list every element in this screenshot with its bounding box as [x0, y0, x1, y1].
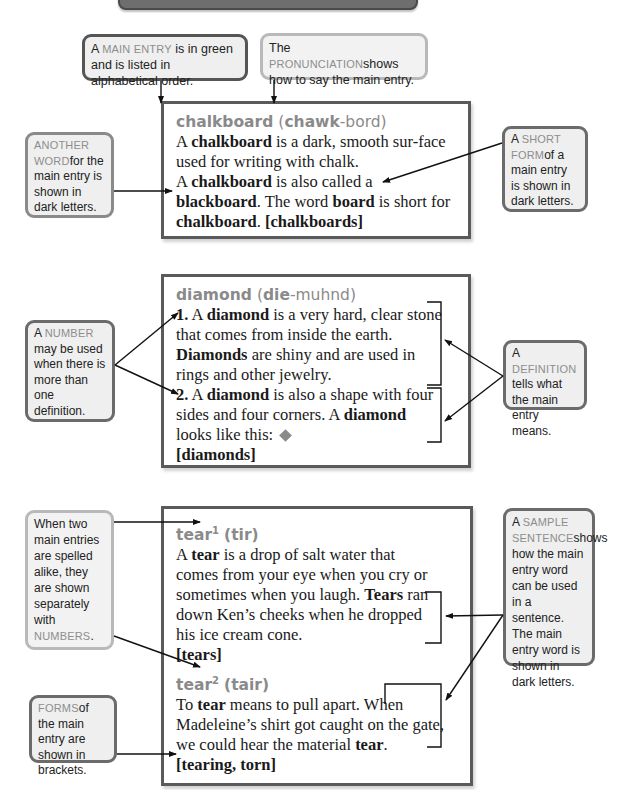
- sense-number: 2.: [176, 385, 188, 404]
- forms: [tearing, torn]: [176, 755, 276, 774]
- entry-tear: tear1 (tir) A tear is a drop of salt wat…: [161, 506, 473, 786]
- headword: tear2: [176, 676, 219, 694]
- callout-short-form: A Short formof a main entry is shown in …: [502, 126, 588, 212]
- headword: diamond: [176, 286, 252, 304]
- another-word: blackboard: [176, 192, 257, 211]
- pronunciation: (die-muhnd): [257, 286, 356, 304]
- callout-text: .: [90, 629, 93, 643]
- pronunciation: (tir): [224, 526, 259, 544]
- term-main-entry: Main entry: [102, 43, 172, 55]
- forms: [chalkboards]: [265, 212, 363, 231]
- callout-text: A: [512, 346, 519, 360]
- term-pronunciation: Pronunciation: [269, 58, 363, 70]
- entry-chalkboard: chalkboard (chawk-bord) A chalkboard is …: [161, 101, 471, 239]
- short-form: board: [332, 192, 374, 211]
- headword: tear1: [176, 526, 219, 544]
- diamond-icon: [279, 429, 292, 442]
- callout-text: A: [91, 42, 102, 56]
- pronunciation: (tair): [224, 676, 269, 694]
- callout-text: A: [511, 132, 522, 146]
- term-number: Number: [45, 327, 94, 339]
- definition: A chalkboard is a dark, smooth sur-face …: [176, 132, 456, 232]
- homograph-number: 2: [212, 675, 219, 686]
- sense-number: 1.: [176, 305, 188, 324]
- forms: [diamonds]: [176, 445, 256, 464]
- callout-sample-sentence: A Sample sentenceshows how the main entr…: [503, 508, 595, 666]
- pronunciation: (chawk-bord): [278, 113, 386, 131]
- callout-text: The: [269, 41, 291, 55]
- entry-heading-tear2: tear2 (tair): [176, 675, 458, 695]
- entry-diamond: diamond (die-muhnd) 1. A diamond is a ve…: [161, 274, 471, 468]
- callout-text: tells what the main entry means.: [512, 377, 562, 438]
- section-banner: [118, 0, 418, 10]
- callout-number: A Number may be used when there is more …: [25, 320, 115, 422]
- callout-pronunciation: The Pronunciationshows how to say the ma…: [260, 33, 428, 80]
- callout-text: When two main entries are spelled alike,…: [34, 517, 99, 627]
- callout-homographs: When two main entries are spelled alike,…: [25, 510, 114, 650]
- entry-heading-tear1: tear1 (tir): [176, 525, 458, 545]
- headword: chalkboard: [176, 113, 273, 131]
- entry-heading: chalkboard (chawk-bord): [176, 112, 456, 132]
- callout-text: A: [512, 515, 523, 529]
- homograph-number: 1: [212, 525, 219, 536]
- callout-text: may be used when there is more than one …: [34, 342, 105, 418]
- callout-forms: Formsof the main entry are shown in brac…: [29, 695, 117, 763]
- forms: [tears]: [176, 645, 222, 664]
- callout-text: shows how the main entry word can be use…: [512, 531, 608, 689]
- callout-text: A: [34, 326, 45, 340]
- callout-main-entry: A Main entry is in green and is listed i…: [82, 34, 248, 81]
- term-forms: Forms: [38, 702, 79, 714]
- definition: A tear is a drop of salt water that come…: [176, 545, 438, 665]
- callout-definition: A Definition tells what the main entry m…: [503, 340, 587, 410]
- sample-sentence-word: tear: [355, 735, 383, 754]
- entry-heading: diamond (die-muhnd): [176, 285, 456, 305]
- sample-sentence-word: Tears: [364, 585, 403, 604]
- definition: To tear means to pull apart. When Madele…: [176, 695, 451, 775]
- term-definition: Definition: [512, 363, 576, 375]
- term-numbers: Numbers: [34, 630, 90, 642]
- callout-another-word: Another wordfor the main entry is shown …: [25, 132, 114, 218]
- definition: 1. A diamond is a very hard, clear stone…: [176, 305, 444, 465]
